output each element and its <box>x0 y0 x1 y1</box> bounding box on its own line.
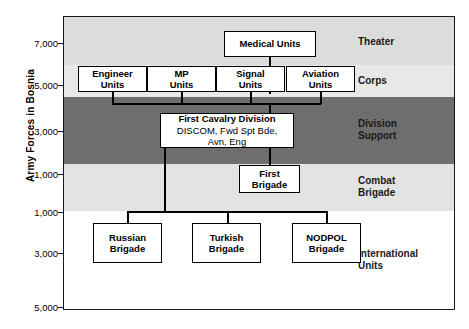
band-label-division-support: Division Support <box>358 118 444 142</box>
node-title: MP <box>174 68 188 79</box>
node-title: Engineer <box>92 68 133 79</box>
node-title: Medical Units <box>239 38 300 49</box>
connector-nodpol-stub <box>326 211 328 223</box>
node-first-brigade[interactable]: First Brigade <box>239 165 300 193</box>
node-first-cavalry-division[interactable]: First Cavalry Division DISCOM, Fwd Spt B… <box>160 113 294 148</box>
y-tick-label: 3,000 <box>18 126 58 137</box>
connector-division-to-first-brigade <box>269 148 271 165</box>
org-chart-figure: Army Forces in Bosnia 7,000 5,000 3,000 … <box>0 0 469 329</box>
y-tick-label: 1,000 <box>18 169 58 180</box>
node-mp-units[interactable]: MP Units <box>147 66 216 92</box>
node-title: Signal <box>236 68 265 79</box>
node-turkish-brigade[interactable]: Turkish Brigade <box>192 223 261 263</box>
node-subtitle: Brigade <box>252 179 287 190</box>
node-subtitle: Units <box>101 79 125 90</box>
connector-corps-bus <box>112 103 321 105</box>
node-subtitle: Brigade <box>110 243 145 254</box>
y-tick-label: 7,000 <box>18 38 58 49</box>
connector-turkish-stub <box>227 211 229 223</box>
node-title: First <box>259 168 280 179</box>
band-label-combat-brigade: Combat Brigade <box>358 175 444 199</box>
node-subtitle: Units <box>309 79 333 90</box>
node-subtitle: Brigade <box>309 243 344 254</box>
node-nodpol-brigade[interactable]: NODPOL Brigade <box>292 223 361 263</box>
node-title: Turkish <box>210 232 244 243</box>
node-title: Russian <box>109 232 146 243</box>
node-subtitle2: Avn, Eng <box>208 136 246 147</box>
node-title: Aviation <box>302 68 339 79</box>
band-label-theater: Theater <box>358 36 444 48</box>
node-signal-units[interactable]: Signal Units <box>216 66 285 92</box>
band-label-line1: Corps <box>358 75 387 86</box>
connector-bus-to-division <box>269 103 271 113</box>
node-subtitle: Brigade <box>209 243 244 254</box>
connector-division-to-international-bus <box>164 148 166 212</box>
band-label-corps: Corps <box>358 75 444 87</box>
band-label-line1: Theater <box>358 36 394 47</box>
y-tick-label: 1,000 <box>18 207 58 218</box>
node-russian-brigade[interactable]: Russian Brigade <box>93 223 162 263</box>
y-axis-tick-labels: 7,000 5,000 3,000 1,000 1,000 3,000 5,00… <box>14 0 58 329</box>
band-label-line2: Units <box>358 260 444 272</box>
node-subtitle: Units <box>239 79 263 90</box>
band-label-line1: International <box>358 248 444 260</box>
y-tick-label: 5,000 <box>18 80 58 91</box>
node-engineer-units[interactable]: Engineer Units <box>78 66 147 92</box>
node-aviation-units[interactable]: Aviation Units <box>286 66 355 92</box>
band-label-line2: Brigade <box>358 187 444 199</box>
node-medical-units[interactable]: Medical Units <box>224 31 316 57</box>
node-subtitle: Units <box>170 79 194 90</box>
band-label-international-units: International Units <box>358 248 444 272</box>
node-title: First Cavalry Division <box>178 113 275 124</box>
band-label-line1: Division <box>358 118 444 130</box>
node-subtitle: DISCOM, Fwd Spt Bde, <box>177 125 277 136</box>
node-title: NODPOL <box>306 232 347 243</box>
plot-area: Theater Corps Division Support Combat Br… <box>63 16 455 310</box>
band-label-line1: Combat <box>358 175 444 187</box>
y-tick-label: 5,000 <box>18 302 58 313</box>
connector-russian-stub <box>127 211 129 223</box>
band-label-line2: Support <box>358 130 444 142</box>
y-tick-label: 3,000 <box>18 248 58 259</box>
